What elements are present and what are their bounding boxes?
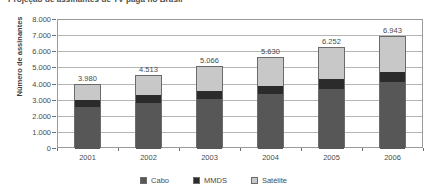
bar-column: 5.630	[240, 19, 301, 148]
bar-segment-satelite[interactable]	[319, 48, 344, 79]
bar-segment-cabo[interactable]	[258, 94, 283, 149]
y-axis-tick-mark	[52, 35, 56, 36]
bar-segment-mmds[interactable]	[380, 72, 405, 82]
x-axis-tick-mark	[240, 148, 241, 151]
legend-label: MMDS	[204, 176, 227, 185]
chart-legend: CaboMMDSSatélite	[0, 176, 427, 185]
bar-segment-cabo[interactable]	[380, 82, 405, 149]
x-axis-tick-label: 2004	[262, 153, 279, 162]
bar-value-label: 5.630	[261, 47, 280, 56]
bar-segment-mmds[interactable]	[136, 95, 161, 103]
y-axis-tick-label: 4.000	[32, 79, 51, 88]
stacked-bar[interactable]	[135, 75, 162, 148]
legend-label: Satélite	[262, 176, 287, 185]
bar-value-label: 6.252	[322, 37, 341, 46]
bar-segment-cabo[interactable]	[75, 107, 100, 149]
bar-segment-satelite[interactable]	[380, 37, 405, 72]
x-axis-tick-mark	[179, 148, 180, 151]
x-axis-tick-label: 2003	[201, 153, 218, 162]
stacked-bar[interactable]	[74, 84, 101, 148]
y-axis-tick-mark	[52, 132, 56, 133]
y-axis-tick-labels: 01.0002.0003.0004.0005.0006.0007.0008.00…	[0, 19, 55, 148]
stacked-bar[interactable]	[196, 66, 223, 148]
x-axis-tick-mark	[423, 148, 424, 151]
y-axis-tick-mark	[52, 116, 56, 117]
y-axis-tick-label: 3.000	[32, 95, 51, 104]
y-axis-tick-label: 0	[47, 144, 51, 153]
x-axis-tick-mark	[301, 148, 302, 151]
bar-value-label: 6.943	[383, 26, 402, 35]
legend-item-cabo[interactable]: Cabo	[140, 176, 169, 185]
legend-swatch-icon	[140, 177, 147, 184]
legend-item-mmds[interactable]: MMDS	[193, 176, 227, 185]
stacked-bar[interactable]	[379, 36, 406, 148]
x-axis-tick-mark	[57, 148, 58, 151]
y-axis-tick-label: 6.000	[32, 47, 51, 56]
x-axis-tick-label: 2005	[323, 153, 340, 162]
y-axis-tick-label: 1.000	[32, 127, 51, 136]
y-axis-tick-label: 7.000	[32, 31, 51, 40]
bar-column: 6.943	[362, 19, 423, 148]
bar-segment-mmds[interactable]	[258, 86, 283, 95]
bar-segment-mmds[interactable]	[197, 91, 222, 99]
x-axis-tick-label: 2001	[79, 153, 96, 162]
y-axis-tick-mark	[52, 148, 56, 149]
stacked-bar[interactable]	[318, 47, 345, 148]
legend-label: Cabo	[151, 176, 169, 185]
bar-value-label: 4.513	[139, 65, 158, 74]
y-axis-tick-label: 8.000	[32, 15, 51, 24]
y-axis-tick-mark	[52, 84, 56, 85]
chart-container: Projeção de assinantes de TV paga no Bra…	[0, 0, 427, 194]
bar-segment-satelite[interactable]	[258, 58, 283, 86]
bar-series-group: 3.9804.5135.0665.6306.2526.943	[57, 19, 423, 148]
y-axis-tick-mark	[52, 19, 56, 20]
y-axis-tick-mark	[52, 67, 56, 68]
x-axis-tick-mark	[118, 148, 119, 151]
y-axis-tick-label: 5.000	[32, 63, 51, 72]
chart-title: Projeção de assinantes de TV paga no Bra…	[8, 0, 183, 4]
bar-column: 6.252	[301, 19, 362, 148]
x-axis: 200120022003200420052006	[57, 148, 423, 166]
legend-swatch-icon	[251, 177, 258, 184]
bar-value-label: 3.980	[78, 74, 97, 83]
bar-segment-satelite[interactable]	[75, 85, 100, 100]
bar-segment-cabo[interactable]	[136, 103, 161, 149]
y-axis-tick-mark	[52, 51, 56, 52]
bar-column: 5.066	[179, 19, 240, 148]
bar-segment-mmds[interactable]	[75, 100, 100, 107]
x-axis-tick-mark	[362, 148, 363, 151]
bar-value-label: 5.066	[200, 56, 219, 65]
x-axis-tick-label: 2006	[384, 153, 401, 162]
bar-segment-satelite[interactable]	[197, 67, 222, 91]
bar-segment-mmds[interactable]	[319, 79, 344, 88]
legend-item-satelite[interactable]: Satélite	[251, 176, 287, 185]
y-axis-tick-mark	[52, 100, 56, 101]
stacked-bar[interactable]	[257, 57, 284, 148]
legend-swatch-icon	[193, 177, 200, 184]
y-axis-tick-label: 2.000	[32, 111, 51, 120]
bar-column: 4.513	[118, 19, 179, 148]
bar-column: 3.980	[57, 19, 118, 148]
bar-segment-cabo[interactable]	[319, 89, 344, 149]
bar-segment-cabo[interactable]	[197, 99, 222, 149]
bar-segment-satelite[interactable]	[136, 76, 161, 95]
x-axis-tick-label: 2002	[140, 153, 157, 162]
